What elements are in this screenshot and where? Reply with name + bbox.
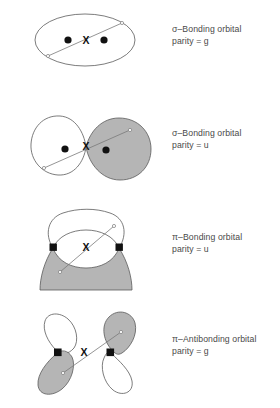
nucleus-marker (116, 244, 123, 251)
orbital-symmetry-label: σ–Bonding orbital (172, 24, 280, 36)
center-x-label: X (80, 346, 87, 358)
nucleus-marker (100, 36, 107, 43)
orbital-symmetry-label: π–Antibonding orbital (172, 334, 280, 346)
axis-endpoint-icon (120, 21, 123, 24)
orbital-diagram-sigma-bonding-u: X (18, 100, 168, 200)
orbital-lobe-shaded (38, 351, 74, 394)
mo-row: X π–Bonding orbital parity = u (0, 200, 280, 300)
center-x-label: X (82, 241, 89, 253)
axis-endpoint-icon (128, 128, 131, 131)
orbital-lobe-unshaded (31, 116, 86, 175)
nucleus-marker (61, 145, 68, 152)
orbital-lobe-shaded (86, 118, 151, 180)
orbital-lobe-shaded (40, 248, 132, 290)
orbital-diagram-sigma-bonding-g: X (18, 0, 168, 100)
orbital-label-block: σ–Bonding orbital parity = g (172, 24, 280, 48)
axis-endpoint-icon (112, 224, 115, 227)
orbital-label-block: π–Antibonding orbital parity = g (172, 334, 280, 358)
mo-row: X σ–Bonding orbital parity = u (0, 100, 280, 200)
nucleus-marker (102, 146, 109, 153)
axis-endpoint-icon (42, 166, 45, 169)
orbital-symmetry-label: π–Bonding orbital (172, 232, 280, 244)
center-x-label: X (82, 34, 89, 46)
orbital-parity-label: parity = u (172, 244, 280, 256)
orbital-lobe-unshaded (102, 352, 132, 393)
nucleus-marker (107, 349, 115, 357)
axis-endpoint-icon (61, 371, 64, 374)
orbital-parity-label: parity = g (172, 346, 280, 358)
orbital-diagram-pi-bonding-u: X (18, 200, 168, 300)
orbital-label-block: π–Bonding orbital parity = u (172, 232, 280, 256)
orbital-symmetry-label: σ–Bonding orbital (172, 128, 280, 140)
axis-endpoint-icon (46, 54, 49, 57)
orbital-parity-label: parity = g (172, 36, 280, 48)
nucleus-marker (50, 244, 57, 251)
molecular-orbital-figure: X σ–Bonding orbital parity = g (0, 0, 280, 408)
orbital-lobe-unshaded (44, 314, 76, 354)
mo-row: X σ–Bonding orbital parity = g (0, 0, 280, 100)
axis-endpoint-icon (58, 270, 61, 273)
orbital-label-block: σ–Bonding orbital parity = u (172, 128, 280, 152)
nucleus-marker (64, 36, 71, 43)
center-x-label: X (82, 140, 89, 152)
orbital-diagram-pi-antibonding-g: X (18, 300, 168, 408)
axis-endpoint-icon (119, 330, 122, 333)
nucleus-marker (54, 349, 62, 357)
mo-row: X π–Antibonding orbital parity = g (0, 300, 280, 408)
orbital-parity-label: parity = u (172, 140, 280, 152)
